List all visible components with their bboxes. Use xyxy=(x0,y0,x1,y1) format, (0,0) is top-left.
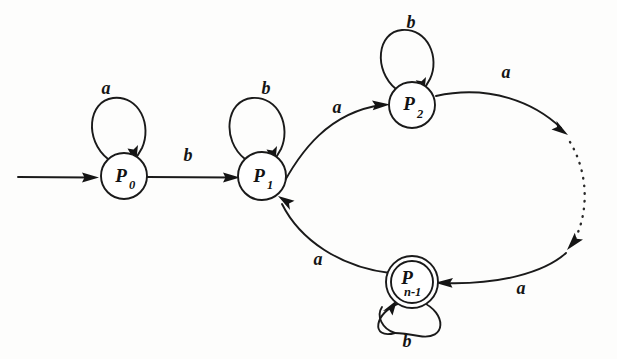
edge-label-p2-self: b xyxy=(407,12,416,32)
state-label-p2: P xyxy=(402,93,415,114)
edge-label-ellipsis-pn1: a xyxy=(517,278,526,298)
edge-label-pn1-p1: a xyxy=(314,249,323,269)
ellipsis-dotted-arc xyxy=(567,142,585,250)
state-label-p0: P xyxy=(114,165,127,186)
edge-label-p0-p1: b xyxy=(184,145,193,165)
automaton-diagram-page: P 0 P 1 P 2 P n-1 a b b a b a a a b xyxy=(0,0,617,359)
state-label-p1: P xyxy=(252,165,265,186)
edge-label-p0-self: a xyxy=(102,78,111,98)
transition-p0-to-p1-b xyxy=(147,173,240,183)
state-subscript-p1: 1 xyxy=(267,178,273,192)
state-subscript-p2: 2 xyxy=(416,107,423,121)
edge-label-p1-p2: a xyxy=(333,97,342,117)
state-node-pn1[interactable]: P n-1 xyxy=(386,256,438,308)
edge-label-p1-self: b xyxy=(262,78,271,98)
edge-label-pn1-self: b xyxy=(403,331,412,351)
automaton-canvas: P 0 P 1 P 2 P n-1 a b b a b a a a b xyxy=(0,0,617,359)
state-subscript-pn1: n-1 xyxy=(404,285,421,299)
transition-pn1-to-p1-a xyxy=(278,196,390,273)
state-node-p1[interactable]: P 1 xyxy=(238,152,286,200)
start-arrow xyxy=(18,173,99,183)
state-node-p2[interactable]: P 2 xyxy=(389,82,435,128)
state-node-p0[interactable]: P 0 xyxy=(101,153,147,199)
transition-ellipsis-to-pn1-a xyxy=(435,253,566,288)
edge-label-p2-ellipsis: a xyxy=(502,62,511,82)
transition-p2-to-ellipsis-a xyxy=(436,92,568,135)
state-subscript-p0: 0 xyxy=(129,178,136,192)
